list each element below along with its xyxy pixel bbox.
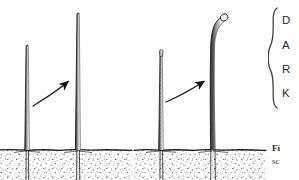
brace-label-stack: D A R K — [282, 6, 299, 110]
figure-illustration — [0, 0, 299, 180]
figure-caption: Fi sc — [272, 142, 299, 176]
scanned-page: D A R K Fi sc — [0, 0, 299, 180]
soil-bed-left — [0, 150, 132, 180]
brace-label-3: K — [282, 87, 290, 99]
brace-label-2: R — [282, 63, 291, 75]
arrow-right — [166, 82, 204, 103]
dark-condition-brace-group: D A R K — [268, 6, 299, 110]
brace-label-1: A — [282, 39, 290, 51]
arrow-left — [33, 82, 68, 107]
caption-body: sc — [272, 155, 299, 168]
caption-lead: Fi — [272, 142, 299, 155]
shoot-bud-tip — [159, 50, 163, 56]
brace-label-0: D — [282, 14, 291, 26]
curly-brace-icon — [268, 6, 280, 110]
soil-bed-right — [134, 150, 266, 180]
